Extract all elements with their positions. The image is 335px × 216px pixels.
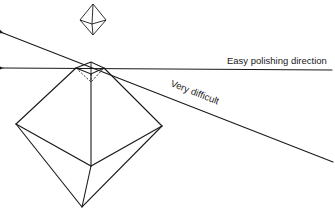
easy-direction-arrow [3, 68, 332, 70]
octahedron-edge-right [104, 68, 162, 126]
easy-direction-label: Easy polishing direction [227, 55, 327, 66]
small-octahedron [80, 4, 106, 35]
octahedron-girdle [16, 124, 162, 166]
large-octahedron [16, 62, 162, 207]
small-octahedron-edges [80, 4, 106, 35]
octahedron-edge-left [16, 68, 76, 124]
polishing-direction-diagram: Easy polishing direction Very difficult [0, 0, 335, 216]
difficult-direction-label: Very difficult [169, 78, 221, 107]
difficult-direction-arrow [3, 33, 333, 162]
octahedron-bottom-edge [82, 166, 91, 207]
